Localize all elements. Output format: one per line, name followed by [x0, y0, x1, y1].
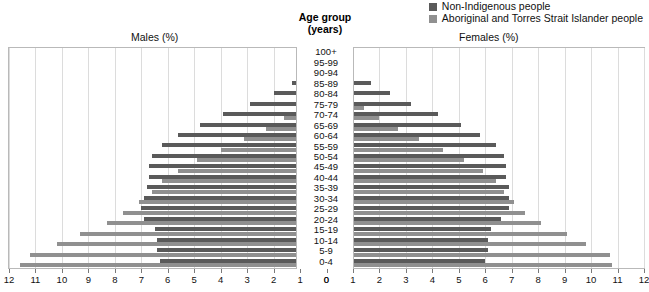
age-group-label: 40-44 [297, 173, 355, 183]
age-group-label: 0-4 [297, 257, 355, 267]
age-group-label: 30-34 [297, 194, 355, 204]
legend-label-aboriginal: Aboriginal and Torres Strait Islander pe… [442, 13, 643, 24]
axis-label-females: 12 [639, 274, 649, 285]
axis-label-males: 1 [297, 274, 302, 285]
age-group-label: 65-69 [297, 121, 355, 131]
age-group-label: 50-54 [297, 152, 355, 162]
axis-label-females: 8 [536, 274, 541, 285]
age-group-label: 60-64 [297, 131, 355, 141]
axis-label-males: 4 [218, 274, 223, 285]
axis-tick [9, 269, 10, 273]
axis-tick [115, 269, 116, 273]
age-group-label: 85-89 [297, 79, 355, 89]
bar-males-aboriginal [107, 221, 327, 225]
axis-label-males: 8 [112, 274, 117, 285]
females-panel-label: Females (%) [459, 31, 519, 43]
bar-females-aboriginal [327, 253, 610, 257]
age-group-title-line2: (years) [290, 24, 360, 36]
axis-label-females: 5 [456, 274, 461, 285]
legend-swatch-aboriginal [429, 15, 437, 23]
axis-label-females: 6 [483, 274, 488, 285]
bar-males-aboriginal [20, 263, 327, 267]
age-group-label: 15-19 [297, 225, 355, 235]
bar-females-aboriginal [327, 211, 525, 215]
age-group-label: 70-74 [297, 110, 355, 120]
axis-tick [406, 269, 407, 273]
axis-tick [459, 269, 460, 273]
age-group-label: 45-49 [297, 162, 355, 172]
axis-tick [35, 269, 36, 273]
age-label-strip: 100+95-9990-9485-8980-8475-7970-7465-696… [296, 47, 354, 269]
axis-tick [194, 269, 195, 273]
age-group-label: 10-14 [297, 236, 355, 246]
axis-tick [618, 269, 619, 273]
axis-label-females: 2 [377, 274, 382, 285]
axis-label-males: 6 [165, 274, 170, 285]
axis-tick [591, 269, 592, 273]
axis-tick [565, 269, 566, 273]
legend-item: Non-Indigenous people [429, 1, 643, 12]
axis-label-females: 0 [324, 274, 329, 285]
axis-tick [644, 269, 645, 273]
axis-tick [327, 269, 328, 273]
axis-label-females: 11 [613, 274, 623, 285]
age-group-label: 80-84 [297, 89, 355, 99]
age-group-label: 25-29 [297, 204, 355, 214]
males-panel-label: Males (%) [131, 31, 178, 43]
axis-label-females: 4 [430, 274, 435, 285]
age-group-label: 100+ [297, 47, 355, 57]
axis-label-males: 12 [4, 274, 15, 285]
axis-tick [300, 269, 301, 273]
axis-label-females: 3 [403, 274, 408, 285]
axis-label-females: 9 [562, 274, 567, 285]
age-group-label: 5-9 [297, 246, 355, 256]
axis-label-females: 7 [509, 274, 514, 285]
bar-females-aboriginal [327, 232, 568, 236]
gridline [644, 48, 645, 268]
axis-label-males: 5 [192, 274, 197, 285]
age-group-label: 35-39 [297, 183, 355, 193]
axis-tick [88, 269, 89, 273]
age-group-title: Age group (years) [290, 12, 360, 35]
axis-tick [353, 269, 354, 273]
bar-females-aboriginal [327, 221, 541, 225]
age-group-title-line1: Age group [290, 12, 360, 24]
axis-tick [274, 269, 275, 273]
axis-tick [485, 269, 486, 273]
legend: Non-Indigenous people Aboriginal and Tor… [429, 1, 643, 24]
axis-tick [538, 269, 539, 273]
axis-label-females: 1 [350, 274, 355, 285]
axis-label-males: 10 [57, 274, 68, 285]
axis-tick [141, 269, 142, 273]
axis-label-males: 7 [139, 274, 144, 285]
axis-tick [168, 269, 169, 273]
axis-tick [247, 269, 248, 273]
x-axis: 12111098765432100123456789101112 [8, 269, 645, 291]
legend-label-non-indigenous: Non-Indigenous people [442, 1, 551, 12]
age-group-label: 90-94 [297, 68, 355, 78]
axis-tick [432, 269, 433, 273]
axis-label-males: 3 [244, 274, 249, 285]
bar-males-aboriginal [30, 253, 326, 257]
bar-females-aboriginal [327, 242, 586, 246]
axis-tick [221, 269, 222, 273]
bar-males-aboriginal [57, 242, 327, 246]
age-group-label: 75-79 [297, 100, 355, 110]
axis-label-males: 9 [86, 274, 91, 285]
bar-males-aboriginal [80, 232, 326, 236]
legend-swatch-non-indigenous [429, 3, 437, 11]
age-group-label: 20-24 [297, 215, 355, 225]
axis-label-males: 11 [31, 274, 41, 285]
axis-tick [379, 269, 380, 273]
axis-label-males: 2 [271, 274, 276, 285]
age-group-label: 95-99 [297, 58, 355, 68]
axis-label-females: 10 [586, 274, 597, 285]
axis-tick [512, 269, 513, 273]
legend-item: Aboriginal and Torres Strait Islander pe… [429, 13, 643, 24]
age-group-label: 55-59 [297, 142, 355, 152]
axis-tick [62, 269, 63, 273]
bar-females-aboriginal [327, 263, 613, 267]
